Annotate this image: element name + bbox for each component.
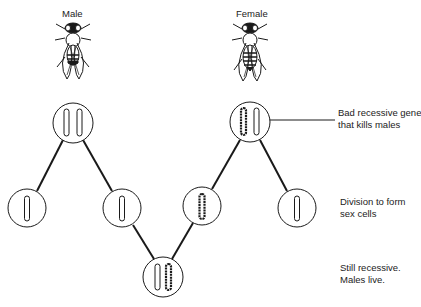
division-annotation: Division to form sex cells xyxy=(340,196,405,220)
male-gamete-2 xyxy=(103,189,141,227)
bad-gene-chromosome xyxy=(241,108,246,135)
normal-chromosome xyxy=(64,109,69,136)
male-label: Male xyxy=(62,8,83,20)
connector-lines xyxy=(37,140,287,259)
female-fly-icon xyxy=(232,23,268,81)
normal-chromosome xyxy=(77,109,82,136)
normal-chromosome xyxy=(254,108,259,135)
male-parent-cell xyxy=(53,103,93,143)
female-label: Female xyxy=(236,8,268,20)
offspring-cell xyxy=(143,257,183,297)
female-parent-cell xyxy=(230,102,270,142)
still-recessive-annotation: Still recessive. Males live. xyxy=(340,262,401,286)
female-gamete-normal xyxy=(278,189,316,227)
bad-gene-annotation: Bad recessive gene that kills males xyxy=(338,107,421,131)
male-gamete-1 xyxy=(8,189,46,227)
female-gamete-bad xyxy=(183,187,221,225)
male-fly-icon xyxy=(55,23,91,79)
